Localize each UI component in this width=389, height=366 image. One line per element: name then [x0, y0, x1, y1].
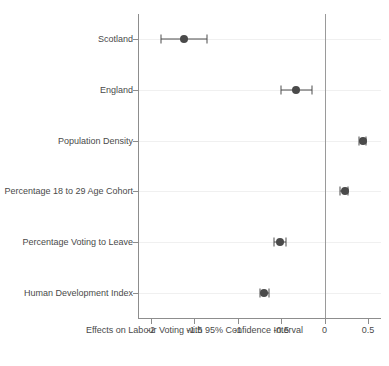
gridline — [139, 90, 381, 91]
confidence-interval-cap — [274, 238, 275, 247]
confidence-interval-cap — [286, 238, 287, 247]
estimate-point-marker — [276, 238, 284, 246]
gridline — [139, 141, 381, 142]
confidence-interval-cap — [160, 35, 161, 44]
x-tick-mark — [151, 319, 152, 324]
x-tick-mark — [325, 319, 326, 324]
category-label: Scotland — [98, 34, 133, 44]
x-tick-mark — [281, 319, 282, 324]
category-label: Percentage 18 to 29 Age Cohort — [4, 186, 133, 196]
confidence-interval-cap — [207, 35, 208, 44]
estimate-point-marker — [292, 86, 300, 94]
x-tick-mark — [238, 319, 239, 324]
y-axis-spine — [138, 14, 139, 318]
estimate-point-marker — [359, 137, 367, 145]
confidence-interval-cap — [281, 86, 282, 95]
category-label: England — [100, 85, 133, 95]
estimate-point-marker — [341, 187, 349, 195]
category-axis-labels: ScotlandEnglandPopulation DensityPercent… — [0, 14, 133, 318]
plot-area: -2-1.5-1-0.500.5 — [138, 14, 381, 318]
x-axis-title: Effects on Labour Voting with 95% Confid… — [0, 325, 389, 335]
estimate-point-marker — [180, 35, 188, 43]
estimate-point-marker — [260, 289, 268, 297]
zero-reference-line — [325, 14, 326, 318]
category-label: Population Density — [58, 136, 133, 146]
confidence-interval-cap — [311, 86, 312, 95]
confidence-interval-cap — [269, 288, 270, 297]
category-label: Percentage Voting to Leave — [22, 237, 133, 247]
coefficient-plot-figure: ScotlandEnglandPopulation DensityPercent… — [0, 0, 389, 366]
x-tick-mark — [194, 319, 195, 324]
gridline — [139, 242, 381, 243]
x-axis-spine — [138, 318, 381, 319]
x-tick-mark — [368, 319, 369, 324]
category-label: Human Development Index — [24, 288, 133, 298]
